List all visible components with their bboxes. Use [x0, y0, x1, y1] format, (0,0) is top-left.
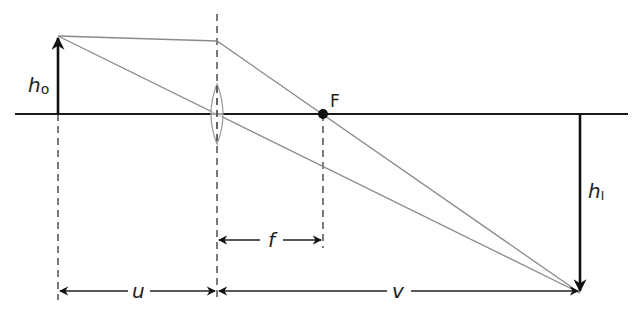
focal-point-dot — [318, 109, 328, 119]
central-ray — [58, 36, 580, 293]
image-height-symbol: h — [588, 179, 601, 203]
object-height-subscript: o — [41, 81, 50, 97]
image-distance-label: v — [392, 279, 405, 303]
focal-length-label: f — [268, 228, 278, 252]
image-height-subscript: I — [601, 189, 605, 203]
object-distance-label: u — [132, 279, 145, 303]
focal-point-label: F — [330, 91, 340, 111]
object-height-label: ho — [28, 73, 49, 97]
lens-ray-diagram: F ho hI f u v — [0, 0, 641, 319]
object-height-symbol: h — [28, 73, 41, 97]
image-height-label: hI — [588, 179, 604, 203]
